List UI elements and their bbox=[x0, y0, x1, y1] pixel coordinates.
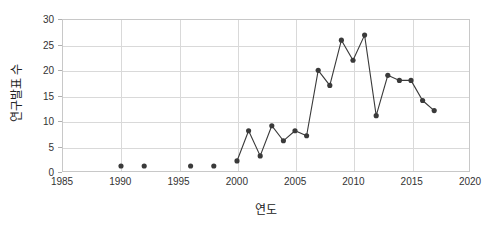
x-axis-tick-labels: 19851990199520002005201020152020 bbox=[0, 0, 504, 231]
x-tick-label-2000: 2000 bbox=[226, 176, 248, 187]
x-tick-label-1995: 1995 bbox=[167, 176, 189, 187]
x-axis-title: 연도 bbox=[62, 200, 470, 217]
x-tick-label-2015: 2015 bbox=[401, 176, 423, 187]
y-axis-title-text: 연구발표 수 bbox=[7, 64, 24, 122]
line-chart: 051015202530 198519901995200020052010201… bbox=[0, 0, 504, 231]
x-tick-label-2010: 2010 bbox=[342, 176, 364, 187]
x-tick-label-1985: 1985 bbox=[51, 176, 73, 187]
x-tick-label-2020: 2020 bbox=[459, 176, 481, 187]
y-axis-title: 연구발표 수 bbox=[2, 38, 28, 148]
x-tick-label-1990: 1990 bbox=[109, 176, 131, 187]
x-tick-label-2005: 2005 bbox=[284, 176, 306, 187]
